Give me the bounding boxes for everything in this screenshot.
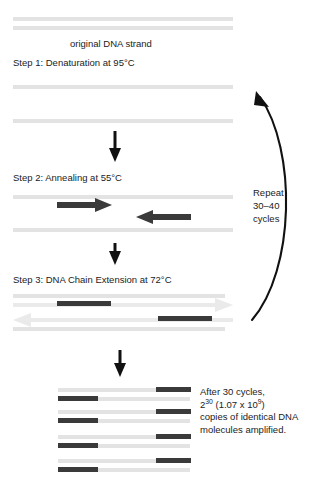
product-segment-left: [58, 443, 98, 448]
result-mid: (1.07 x 10: [213, 399, 258, 410]
reverse-primer-arrow: [136, 210, 191, 224]
repeat-line-2: 30–40: [253, 199, 299, 212]
result-exponent: 30: [205, 397, 213, 404]
step3-template-strand-top: [13, 294, 225, 298]
pcr-diagram: original DNA strand Step 1: Denaturation…: [0, 0, 324, 481]
result-text-block: After 30 cycles, 230 (1.07 x 109) copies…: [200, 386, 320, 436]
step2-strand-bottom: [13, 228, 233, 232]
result-end: ): [262, 399, 265, 410]
result-line-2: 230 (1.07 x 109): [200, 399, 320, 412]
product-segment-left: [58, 396, 98, 401]
product-segment-left: [58, 418, 98, 423]
repeat-line-3: cycles: [253, 212, 299, 225]
product-segment-right: [156, 409, 191, 414]
step1-label: Step 1: Denaturation at 95°C: [13, 57, 135, 69]
original-dna-label: original DNA strand: [70, 38, 152, 50]
step3-primer-segment-top: [57, 301, 111, 306]
step3-label: Step 3: DNA Chain Extension at 72°C: [13, 274, 172, 286]
repeat-line-1: Repeat: [253, 186, 299, 199]
step3-template-strand-bottom: [13, 327, 225, 331]
step2-label: Step 2: Annealing at 55°C: [13, 172, 122, 184]
step2-strand-top: [13, 195, 233, 199]
repeat-cycles-label: Repeat 30–40 cycles: [253, 186, 299, 225]
step3-primer-segment-bottom: [158, 316, 212, 321]
forward-primer-arrow: [57, 198, 112, 212]
product-segment-left: [58, 467, 98, 472]
product-segment-right: [156, 434, 191, 439]
product-segment-right: [156, 387, 191, 392]
product-segment-right: [156, 458, 191, 463]
down-arrow-3: [114, 350, 126, 377]
result-line-4: molecules amplified.: [200, 424, 320, 437]
result-line-3: copies of identical DNA: [200, 411, 320, 424]
down-arrow-2: [109, 243, 121, 265]
down-arrow-1: [109, 131, 121, 162]
step1-strand-bottom: [13, 119, 233, 123]
original-strand-top: [13, 17, 233, 21]
step3-new-strand-forward-arrow: [13, 298, 233, 312]
step1-strand-top: [13, 85, 233, 89]
original-strand-bottom: [13, 26, 233, 30]
